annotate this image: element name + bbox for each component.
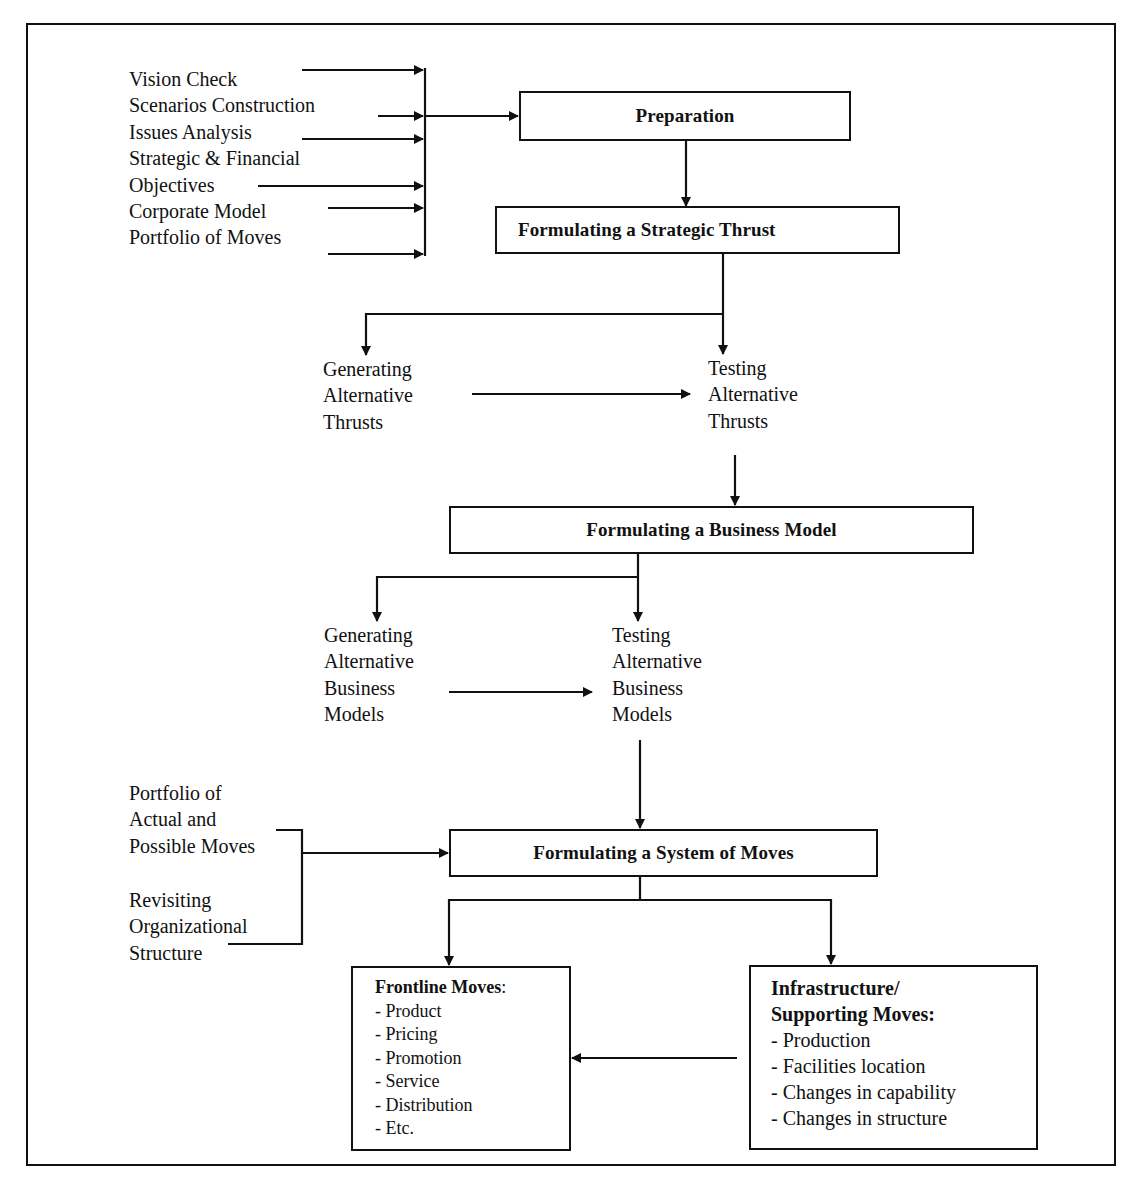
infrastructure-title-2: Supporting Moves:	[771, 1001, 1036, 1027]
frontline-item: - Pricing	[375, 1023, 569, 1047]
frontline-title: Frontline Moves	[375, 977, 501, 997]
preparation-label: Preparation	[636, 105, 735, 127]
input-vision-check: Vision Check	[129, 66, 315, 92]
frontline-item: - Distribution	[375, 1094, 569, 1118]
generating-models-text: Generating Alternative Business Models	[324, 622, 414, 728]
frontline-moves-box: Frontline Moves: - Product - Pricing - P…	[351, 966, 571, 1151]
infrastructure-item: - Changes in capability	[771, 1079, 1036, 1105]
input-portfolio-of-moves: Portfolio of Moves	[129, 224, 315, 250]
system-of-moves-label: Formulating a System of Moves	[533, 842, 793, 864]
input-objectives: Objectives	[129, 172, 315, 198]
input-strategic-financial: Strategic & Financial	[129, 145, 315, 171]
frontline-item: - Etc.	[375, 1117, 569, 1141]
business-model-label: Formulating a Business Model	[586, 519, 836, 541]
infrastructure-item: - Production	[771, 1027, 1036, 1053]
infrastructure-title-1: Infrastructure/	[771, 975, 1036, 1001]
flowchart-canvas: Vision Check Scenarios Construction Issu…	[0, 0, 1137, 1185]
input-issues-analysis: Issues Analysis	[129, 119, 315, 145]
infrastructure-item: - Changes in structure	[771, 1105, 1036, 1131]
strategic-thrust-box: Formulating a Strategic Thrust	[495, 206, 900, 254]
testing-thrusts-text: Testing Alternative Thrusts	[708, 355, 798, 434]
preparation-box: Preparation	[519, 91, 851, 141]
frontline-item: - Service	[375, 1070, 569, 1094]
strategic-thrust-label: Formulating a Strategic Thrust	[518, 219, 776, 241]
testing-models-text: Testing Alternative Business Models	[612, 622, 702, 728]
infrastructure-item: - Facilities location	[771, 1053, 1036, 1079]
system-of-moves-box: Formulating a System of Moves	[449, 829, 878, 877]
infrastructure-moves-box: Infrastructure/ Supporting Moves: - Prod…	[749, 965, 1038, 1150]
portfolio-actual-possible-text: Portfolio of Actual and Possible Moves	[129, 780, 255, 859]
frontline-item: - Promotion	[375, 1047, 569, 1071]
business-model-box: Formulating a Business Model	[449, 506, 974, 554]
generating-thrusts-text: Generating Alternative Thrusts	[323, 356, 413, 435]
revisiting-structure-text: Revisiting Organizational Structure	[129, 887, 247, 966]
top-inputs-list: Vision Check Scenarios Construction Issu…	[129, 66, 315, 251]
input-corporate-model: Corporate Model	[129, 198, 315, 224]
frontline-item: - Product	[375, 1000, 569, 1024]
input-scenarios-construction: Scenarios Construction	[129, 92, 315, 118]
